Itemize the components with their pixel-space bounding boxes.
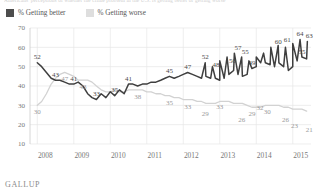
svg-text:40: 40 <box>18 82 26 90</box>
chart-headline: Americans' perceptions of whether the cr… <box>4 0 309 4</box>
data-label: 30 <box>34 108 42 116</box>
legend-label-getting-worse: % Getting worse <box>98 9 146 17</box>
data-label: 55 <box>298 48 306 56</box>
data-label: 48 <box>213 61 221 69</box>
plot-svg: 10203040506070 3047433835332929332632302… <box>0 22 313 167</box>
svg-text:20: 20 <box>18 121 26 129</box>
data-label: 41 <box>125 75 133 83</box>
data-label: 55 <box>242 48 250 56</box>
data-labels-getting-better: 52434133354145474955524857505560616463 <box>34 30 313 98</box>
data-label: 26 <box>238 116 246 124</box>
data-label: 33 <box>93 90 101 98</box>
data-label: 30 <box>264 108 272 116</box>
gridlines <box>30 28 311 144</box>
svg-text:2014: 2014 <box>257 151 272 160</box>
svg-text:2008: 2008 <box>38 151 53 160</box>
y-axis-ticks: 10203040506070 <box>18 24 26 148</box>
crime-perception-chart: Americans' perceptions of whether the cr… <box>0 0 313 196</box>
data-label: 29 <box>248 110 256 118</box>
data-label: 33 <box>184 103 192 111</box>
legend-label-getting-better: % Getting better <box>18 9 66 17</box>
source-attribution: GALLUP <box>5 180 40 189</box>
square-swatch-icon-worse <box>86 9 94 17</box>
data-label: 41 <box>70 75 78 83</box>
chart-legend: % Getting better % Getting worse <box>6 7 146 19</box>
data-label: 47 <box>61 75 69 83</box>
data-label: 52 <box>34 53 42 61</box>
data-label: 63 <box>306 32 313 40</box>
data-label: 33 <box>216 103 224 111</box>
data-label: 26 <box>282 116 290 124</box>
svg-text:2011: 2011 <box>148 151 163 160</box>
svg-text:2010: 2010 <box>111 151 126 160</box>
svg-text:50: 50 <box>18 63 26 71</box>
x-axis-ticks: 20082009201020112012201320142015 <box>38 151 309 160</box>
plot-area: 10203040506070 3047433835332929332632302… <box>0 22 313 167</box>
data-label: 47 <box>184 63 192 71</box>
legend-item-getting-better[interactable]: % Getting better <box>6 9 66 17</box>
data-label: 61 <box>284 36 292 44</box>
data-label: 35 <box>111 86 119 94</box>
data-label: 49 <box>248 59 256 67</box>
data-label: 23 <box>291 122 299 130</box>
data-label: 38 <box>134 93 142 101</box>
svg-text:2012: 2012 <box>184 151 199 160</box>
data-label: 45 <box>166 67 174 75</box>
svg-text:2009: 2009 <box>74 151 89 160</box>
svg-text:10: 10 <box>18 140 26 148</box>
svg-text:70: 70 <box>18 24 26 32</box>
legend-item-getting-worse[interactable]: % Getting worse <box>86 9 146 17</box>
data-label: 43 <box>52 71 60 79</box>
svg-text:2015: 2015 <box>293 151 308 160</box>
square-swatch-icon-better <box>6 9 14 17</box>
data-label: 35 <box>166 99 174 107</box>
data-label: 60 <box>275 38 283 46</box>
data-label: 52 <box>202 53 210 61</box>
data-label: 64 <box>297 30 305 38</box>
data-label: 50 <box>229 57 237 65</box>
data-label: 29 <box>202 110 210 118</box>
svg-text:2013: 2013 <box>220 151 235 160</box>
svg-text:30: 30 <box>18 102 26 110</box>
data-label: 21 <box>306 126 313 134</box>
data-label: 43 <box>79 83 87 91</box>
svg-text:60: 60 <box>18 44 26 52</box>
